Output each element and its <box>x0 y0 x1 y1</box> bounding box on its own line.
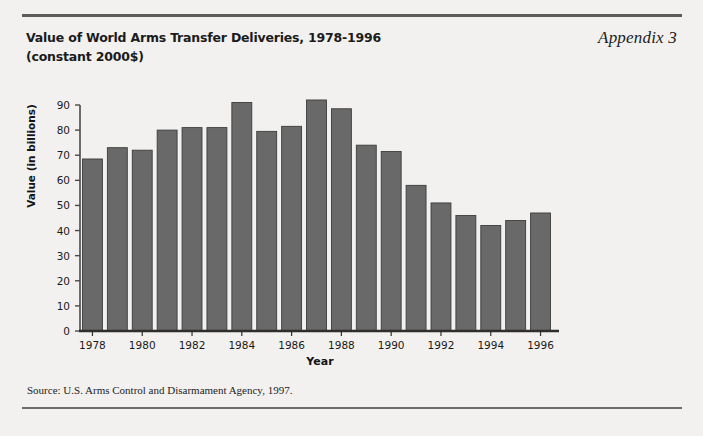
bar <box>381 151 401 331</box>
y-axis-tick-label: 0 <box>63 325 70 337</box>
bar <box>257 131 277 331</box>
y-axis-tick-label: 50 <box>57 199 70 211</box>
bar <box>282 126 302 331</box>
x-axis-tick-label: 1992 <box>428 339 455 351</box>
y-axis-tick-label: 30 <box>57 250 70 262</box>
bar <box>182 128 202 331</box>
bar <box>232 102 252 331</box>
bottom-divider <box>22 407 682 409</box>
bar <box>356 145 376 331</box>
y-axis-tick-label: 20 <box>57 275 70 287</box>
x-axis-tick-label: 1984 <box>228 339 255 351</box>
bar <box>207 128 227 331</box>
bar <box>481 226 501 331</box>
y-axis-tick-label: 80 <box>57 124 70 136</box>
x-axis-tick-label: 1978 <box>79 339 106 351</box>
bar <box>531 213 551 331</box>
bar-series <box>82 100 550 331</box>
y-axis-tick-label: 70 <box>57 149 70 161</box>
source-note: Source: U.S. Arms Control and Disarmamen… <box>27 384 292 396</box>
y-axis-tick-label: 60 <box>57 174 70 186</box>
x-axis-tick-label: 1994 <box>477 339 504 351</box>
bar <box>506 221 526 331</box>
y-axis-tick-label: 40 <box>57 225 70 237</box>
bar <box>406 185 426 331</box>
bar-chart-svg: 0102030405060708090 19781980198219841986… <box>0 0 703 436</box>
bar <box>107 148 127 331</box>
bar <box>456 215 476 331</box>
chart-plot-area: Value (in billions) Year 010203040506070… <box>0 0 703 436</box>
x-axis-tick-label: 1996 <box>527 339 554 351</box>
x-axis-tick-label: 1980 <box>129 339 156 351</box>
y-axis-tick-label: 90 <box>57 99 70 111</box>
y-axis-ticks: 0102030405060708090 <box>57 99 80 337</box>
bar <box>132 150 152 331</box>
x-axis-tick-label: 1982 <box>179 339 206 351</box>
bar <box>307 100 327 331</box>
x-axis-tick-label: 1990 <box>378 339 405 351</box>
x-axis-tick-label: 1988 <box>328 339 355 351</box>
bar <box>82 159 102 331</box>
x-axis-ticks: 1978198019821984198619881990199219941996 <box>79 331 554 351</box>
x-axis-tick-label: 1986 <box>278 339 305 351</box>
bar <box>331 109 351 331</box>
y-axis-tick-label: 10 <box>57 300 70 312</box>
bar <box>157 130 177 331</box>
page-root: Value of World Arms Transfer Deliveries,… <box>0 0 703 436</box>
bar <box>431 203 451 331</box>
